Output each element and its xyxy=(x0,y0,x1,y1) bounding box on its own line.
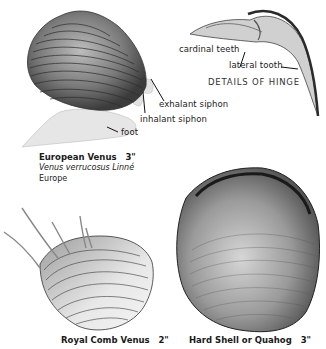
common-name: Royal Comb Venus xyxy=(61,335,150,345)
european-venus-scientific-name: Venus verrucosus Linné xyxy=(39,163,134,172)
details-of-hinge-heading: DETAILS OF HINGE xyxy=(208,77,300,87)
label-exhalant-siphon: exhalant siphon xyxy=(159,99,228,109)
size: 2" xyxy=(158,335,168,345)
european-venus-shell xyxy=(28,11,147,110)
european-venus-caption: European Venus 3" xyxy=(39,152,136,162)
european-venus-range: Europe xyxy=(39,174,67,183)
royal-comb-venus-caption: Royal Comb Venus 2" xyxy=(61,335,169,345)
european-venus-foot xyxy=(22,109,136,147)
label-inhalant-siphon: inhalant siphon xyxy=(140,114,207,124)
quahog-caption: Hard Shell or Quahog 3" xyxy=(189,335,311,345)
label-cardinal-teeth: cardinal teeth xyxy=(179,44,240,54)
label-foot: foot xyxy=(121,127,138,137)
label-lateral-tooth: lateral tooth xyxy=(229,60,283,70)
common-name: Hard Shell or Quahog xyxy=(189,335,292,345)
common-name: European Venus xyxy=(39,152,117,162)
royal-comb-venus-shell xyxy=(4,208,153,330)
quahog-shell xyxy=(177,168,320,332)
size: 3" xyxy=(125,152,135,162)
size: 3" xyxy=(301,335,311,345)
